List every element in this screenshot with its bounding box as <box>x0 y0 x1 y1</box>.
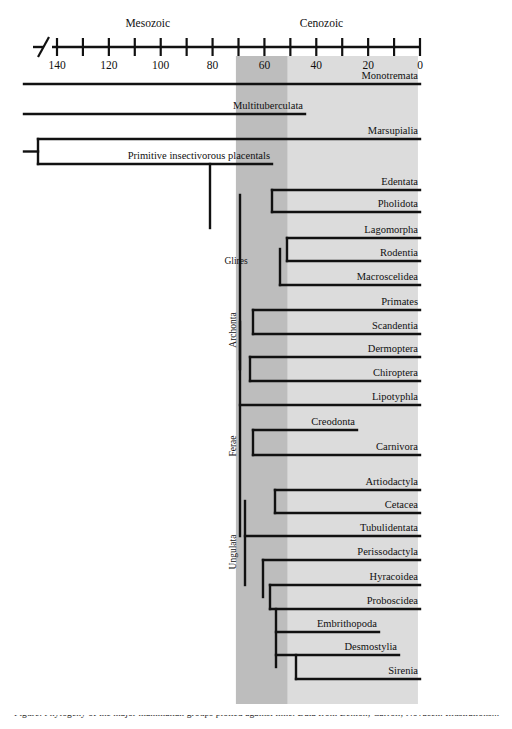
taxon-label-lipotyphla: Lipotyphla <box>372 391 418 402</box>
svg-text:Ferae: Ferae <box>228 435 238 456</box>
time-axis: 140120100806040200MesozoicCenozoic <box>33 17 423 71</box>
axis-tick-label: 80 <box>207 59 219 71</box>
taxon-label-multituberculata: Multituberculata <box>233 100 303 111</box>
axis-tick-label: 120 <box>100 59 118 71</box>
figure-caption-strip: Figure. Phylogeny of the major mammalian… <box>0 715 512 729</box>
taxon-label-macroscelidea: Macroscelidea <box>357 271 419 282</box>
taxon-label-edentata: Edentata <box>381 176 418 187</box>
taxon-label-tubulidentata: Tubulidentata <box>360 522 418 533</box>
taxon-label-embrithopoda: Embrithopoda <box>317 618 377 629</box>
taxon-label-sirenia: Sirenia <box>388 665 418 676</box>
taxon-label-carnivora: Carnivora <box>376 441 418 452</box>
taxon-label-desmostylia: Desmostylia <box>345 641 398 652</box>
taxon-label-marsupialia: Marsupialia <box>368 125 418 136</box>
taxon-label-cetacea: Cetacea <box>385 499 419 510</box>
axis-tick-label: 60 <box>259 59 271 71</box>
taxon-label-scandentia: Scandentia <box>372 320 418 331</box>
taxon-label-chiroptera: Chiroptera <box>373 367 418 378</box>
era-label-mesozoic: Mesozoic <box>125 17 170 29</box>
figure-canvas: 140120100806040200MesozoicCenozoic Monot… <box>0 0 512 729</box>
taxon-label-monotremata: Monotremata <box>361 70 418 81</box>
taxon-label-primitive-insectivorous-placentals: Primitive insectivorous placentals <box>128 150 270 161</box>
taxon-label-dermoptera: Dermoptera <box>368 343 418 354</box>
taxon-label-primates: Primates <box>381 296 418 307</box>
taxon-label-creodonta: Creodonta <box>311 416 355 427</box>
taxon-label-hyracoidea: Hyracoidea <box>370 571 419 582</box>
taxon-label-perissodactyla: Perissodactyla <box>357 546 418 557</box>
axis-tick-label: 100 <box>152 59 170 71</box>
svg-text:Archonta: Archonta <box>228 312 238 348</box>
axis-tick-label: 140 <box>48 59 66 71</box>
taxon-label-lagomorpha: Lagomorpha <box>364 224 418 235</box>
axis-tick-label: 0 <box>417 59 423 71</box>
taxon-label-proboscidea: Proboscidea <box>367 595 419 606</box>
svg-text:Ungulata: Ungulata <box>228 534 238 570</box>
phylogenetic-tree: 140120100806040200MesozoicCenozoic Monot… <box>0 0 512 729</box>
era-label-cenozoic: Cenozoic <box>300 17 343 29</box>
taxon-label-artiodactyla: Artiodactyla <box>366 476 419 487</box>
axis-tick-label: 40 <box>311 59 323 71</box>
svg-text:Glires: Glires <box>224 256 248 266</box>
taxon-label-rodentia: Rodentia <box>380 247 418 258</box>
figure-caption: Figure. Phylogeny of the major mammalian… <box>14 715 499 718</box>
taxon-label-pholidota: Pholidota <box>378 198 419 209</box>
clade-label-glires: Glires <box>224 256 248 266</box>
